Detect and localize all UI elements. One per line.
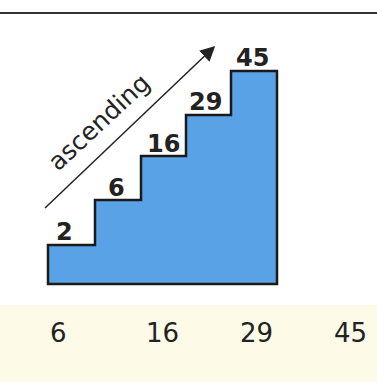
- step-label-5: 45: [236, 44, 269, 72]
- step-label-3: 16: [147, 130, 180, 158]
- staircase-diagram: ascending 2 6 16 29 45: [0, 0, 377, 305]
- sequence-value-1: 6: [50, 318, 67, 348]
- sequence-value-3: 29: [240, 318, 273, 348]
- ascending-label: ascending: [42, 68, 155, 176]
- step-label-2: 6: [108, 174, 125, 202]
- sequence-value-2: 16: [146, 318, 179, 348]
- staircase-shape: [48, 71, 277, 284]
- step-label-4: 29: [189, 88, 222, 116]
- step-label-1: 2: [56, 218, 73, 246]
- sequence-value-4: 45: [334, 318, 367, 348]
